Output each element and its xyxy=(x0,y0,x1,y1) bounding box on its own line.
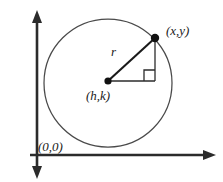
right-angle-marker xyxy=(144,70,155,81)
x-axis-right-arrowhead xyxy=(203,150,216,160)
circle-diagram: (x,y) (h,k) r (0,0) xyxy=(0,0,223,182)
y-axis-top-arrowhead xyxy=(32,10,42,23)
circle-diagram-canvas xyxy=(0,0,223,182)
circumference-point-dot xyxy=(151,34,159,42)
radius-label: r xyxy=(111,45,116,58)
y-axis-bottom-arrowhead xyxy=(32,166,42,179)
center-point-dot xyxy=(104,77,111,84)
origin-label: (0,0) xyxy=(38,140,63,153)
center-label: (h,k) xyxy=(86,89,110,102)
point-on-circle-label: (x,y) xyxy=(166,24,189,37)
